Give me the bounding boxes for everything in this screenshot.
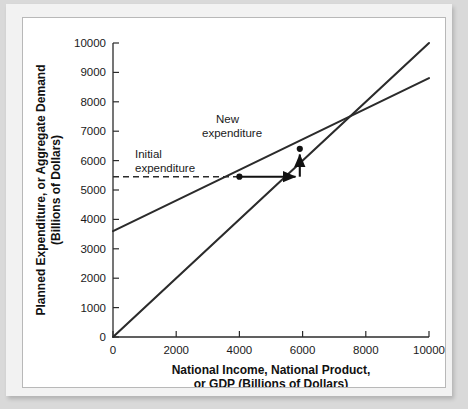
- y-axis-ticks: [113, 43, 119, 337]
- x-tick-label-0: 0: [110, 344, 116, 356]
- y-tick-label-1000: 1000: [80, 302, 106, 314]
- y-axis-title: Planned Expenditure, or Aggregate Demand…: [34, 65, 63, 316]
- new-expenditure-point: [297, 146, 303, 152]
- x-tick-label-2000: 2000: [163, 344, 189, 356]
- x-axis-ticks: [113, 331, 429, 337]
- initial-expenditure-annotation: Initial expenditure: [135, 148, 195, 174]
- y-tick-label-8000: 8000: [80, 96, 106, 108]
- series-45-degree-line: [113, 43, 429, 337]
- new-expenditure-label-line2: expenditure: [202, 127, 262, 139]
- y-axis-tick-labels: 10000 9000 8000 7000 6000 5000 4000 3000…: [74, 37, 106, 343]
- y-tick-label-10000: 10000: [74, 37, 106, 49]
- y-tick-label-7000: 7000: [80, 125, 106, 137]
- figure-mat: 10000 9000 8000 7000 6000 5000 4000 3000…: [6, 4, 452, 396]
- y-tick-label-3000: 3000: [80, 243, 106, 255]
- x-tick-label-8000: 8000: [353, 344, 379, 356]
- new-expenditure-label-line1: New: [216, 113, 240, 125]
- y-tick-label-0: 0: [100, 331, 106, 343]
- y-tick-label-2000: 2000: [80, 272, 106, 284]
- initial-expenditure-point: [236, 174, 242, 180]
- y-axis-title-line2: (Billions of Dollars): [49, 135, 63, 245]
- x-axis-title-line1: National Income, National Product,: [172, 363, 371, 377]
- expenditure-chart: 10000 9000 8000 7000 6000 5000 4000 3000…: [23, 18, 445, 387]
- x-tick-label-10000: 10000: [413, 344, 445, 356]
- y-axis-title-line1: Planned Expenditure, or Aggregate Demand: [34, 65, 48, 316]
- x-axis-tick-labels: 0 2000 4000 6000 8000 10000: [110, 344, 445, 356]
- figure-page: 10000 9000 8000 7000 6000 5000 4000 3000…: [0, 0, 468, 409]
- x-axis-title: National Income, National Product, or GD…: [172, 363, 371, 387]
- initial-expenditure-label-line2: expenditure: [135, 162, 195, 174]
- x-axis-title-line2: or GDP (Billions of Dollars): [194, 377, 348, 387]
- y-tick-label-5000: 5000: [80, 184, 106, 196]
- new-expenditure-annotation: New expenditure: [202, 113, 262, 139]
- x-tick-label-4000: 4000: [227, 344, 253, 356]
- figure-frame: 10000 9000 8000 7000 6000 5000 4000 3000…: [22, 17, 446, 388]
- y-tick-label-9000: 9000: [80, 66, 106, 78]
- x-tick-label-6000: 6000: [290, 344, 316, 356]
- y-tick-label-6000: 6000: [80, 155, 106, 167]
- y-tick-label-4000: 4000: [80, 213, 106, 225]
- initial-expenditure-label-line1: Initial: [135, 148, 162, 160]
